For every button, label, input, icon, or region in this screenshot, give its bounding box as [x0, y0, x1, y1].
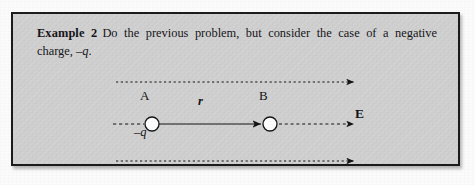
scanned-textbook-page: Example 2Do the previous problem, but co…	[0, 0, 475, 185]
field-diagram: A –q B r E	[13, 14, 462, 168]
charge-a-label: A	[140, 88, 149, 104]
vector-r-label: r	[198, 94, 203, 109]
charge-a-sublabel: –q	[134, 125, 147, 140]
charge-a-circle	[145, 117, 159, 131]
point-b-circle	[263, 117, 277, 131]
field-e-label: E	[355, 106, 364, 122]
point-b-label: B	[259, 88, 268, 104]
example-callout-box: Example 2Do the previous problem, but co…	[11, 12, 460, 166]
